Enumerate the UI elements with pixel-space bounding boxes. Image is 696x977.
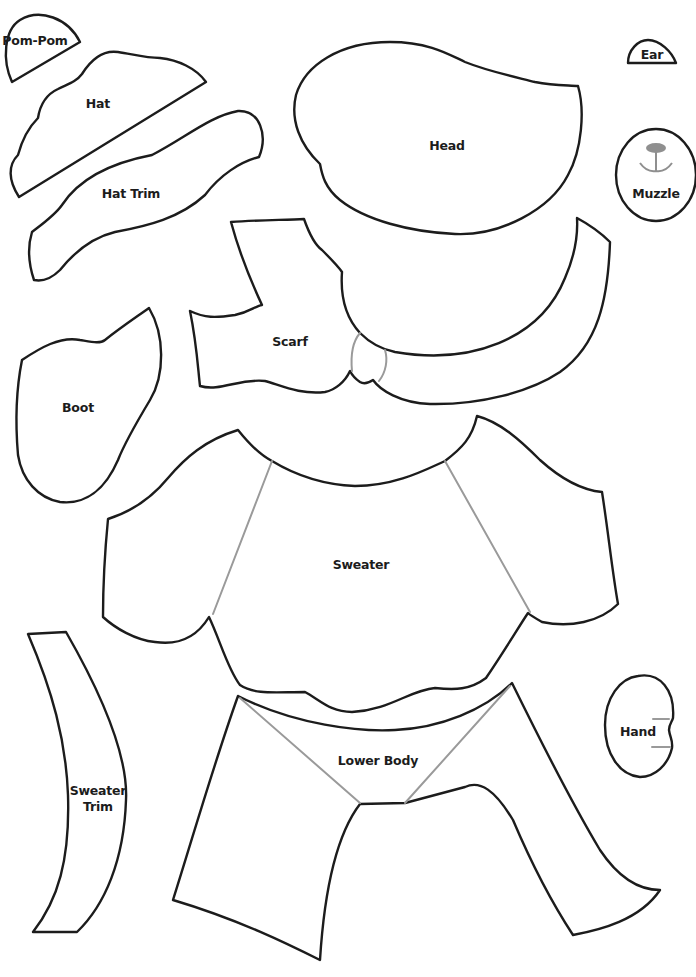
pattern-sheet: Pom-Pom Hat Hat Trim Head Ear Muzzle Sca… <box>0 0 696 977</box>
hat-label: Hat <box>86 96 110 111</box>
boot-piece: Boot <box>16 308 161 502</box>
scarf-label: Scarf <box>272 334 308 349</box>
lower-body-piece: Lower Body <box>173 683 660 960</box>
ear-piece: Ear <box>628 40 676 63</box>
sweater-trim-label-line1: Sweater <box>70 783 128 798</box>
hat-trim-label: Hat Trim <box>102 186 160 201</box>
muzzle-piece: Muzzle <box>616 129 696 221</box>
lower-body-label: Lower Body <box>338 753 418 768</box>
sweater-trim-piece: Sweater Trim <box>28 632 127 932</box>
boot-label: Boot <box>62 400 94 415</box>
sweater-trim-label-line2: Trim <box>83 799 113 814</box>
head-piece: Head <box>294 42 581 234</box>
muzzle-label: Muzzle <box>632 186 679 201</box>
pom-pom-label: Pom-Pom <box>2 33 68 48</box>
hand-piece: Hand <box>605 675 673 777</box>
pom-pom-piece: Pom-Pom <box>2 15 80 82</box>
scarf-piece: Scarf <box>190 218 610 404</box>
ear-label: Ear <box>641 47 665 62</box>
sweater-label: Sweater <box>333 557 391 572</box>
head-label: Head <box>429 138 465 153</box>
sweater-piece: Sweater <box>103 416 618 712</box>
hand-label: Hand <box>620 724 656 739</box>
